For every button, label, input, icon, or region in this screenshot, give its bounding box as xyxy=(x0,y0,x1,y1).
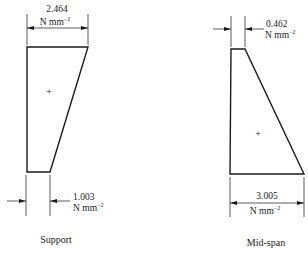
mid-span-top-dimension: 0.462 N mm−2 xyxy=(213,16,295,47)
support-stress-block xyxy=(27,47,88,172)
support-caption: Support xyxy=(40,234,72,245)
mid-span-bottom-dimension: 3.005 N mm−2 xyxy=(230,177,304,217)
mid-span-bottom-stress-unit: N mm−2 xyxy=(250,205,280,216)
support-bottom-stress-unit: N mm−2 xyxy=(73,202,103,213)
mid-span-top-stress-unit: N mm−2 xyxy=(265,29,295,40)
support-centroid-marker: + xyxy=(46,86,52,97)
mid-span-bottom-stress-value: 3.005 xyxy=(256,191,278,201)
support-top-stress-unit: N mm−2 xyxy=(40,16,70,27)
mid-span-caption: Mid-span xyxy=(247,237,285,248)
mid-span-centroid-marker: + xyxy=(255,128,261,139)
support-diagram: + 2.464 N mm−2 1.003 N mm−2 Support xyxy=(7,4,103,245)
support-bottom-dimension: 1.003 N mm−2 xyxy=(7,175,103,216)
support-top-stress-value: 2.464 xyxy=(46,4,68,14)
support-bottom-stress-value: 1.003 xyxy=(73,192,95,202)
mid-span-diagram: + 0.462 N mm−2 3.005 N mm−2 Mid-span xyxy=(213,16,304,248)
mid-span-top-stress-value: 0.462 xyxy=(266,19,288,29)
mid-span-stress-block xyxy=(230,49,304,174)
stress-distribution-diagrams: + 2.464 N mm−2 1.003 N mm−2 Support + xyxy=(0,0,308,256)
support-top-dimension: 2.464 N mm−2 xyxy=(27,4,88,45)
